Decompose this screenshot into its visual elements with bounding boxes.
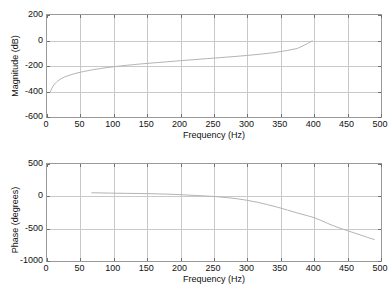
y-tick-label: -400 xyxy=(25,86,43,95)
magnitude-chart-panel: 050100150200250300350400450500 -600-400-… xyxy=(0,0,392,150)
phase-y-axis-title: Phase (degrees) xyxy=(11,187,20,254)
x-tick-label: 400 xyxy=(306,120,321,129)
x-tick-label: 150 xyxy=(139,264,154,273)
x-tick-label: 400 xyxy=(306,264,321,273)
x-tick-label: 300 xyxy=(239,264,254,273)
y-tick-label: 0 xyxy=(38,191,43,200)
y-tick-label: -1000 xyxy=(20,256,43,265)
phase-x-axis-title: Frequency (Hz) xyxy=(183,275,245,284)
x-tick-label: 0 xyxy=(43,264,48,273)
x-tick-label: 500 xyxy=(372,120,387,129)
magnitude-x-axis-title: Frequency (Hz) xyxy=(183,131,245,140)
x-tick-label: 250 xyxy=(205,120,220,129)
x-tick-label: 500 xyxy=(372,264,387,273)
y-tick-label: -600 xyxy=(25,112,43,121)
y-tick-label: -500 xyxy=(25,223,43,232)
phase-chart-panel: 050100150200250300350400450500 -1000-500… xyxy=(0,150,392,300)
x-tick-label: 350 xyxy=(272,264,287,273)
x-tick-label: 350 xyxy=(272,120,287,129)
x-tick-label: 450 xyxy=(339,120,354,129)
y-tick-label: 0 xyxy=(38,35,43,44)
phase-data-curve xyxy=(92,193,375,240)
x-tick-label: 50 xyxy=(74,120,84,129)
x-tick-label: 100 xyxy=(105,120,120,129)
x-tick-label: 50 xyxy=(74,264,84,273)
magnitude-data-curve xyxy=(50,41,312,92)
magnitude-y-axis-title: Magnitude (dB) xyxy=(11,35,20,97)
y-tick-label: 200 xyxy=(28,10,43,19)
x-tick-label: 200 xyxy=(172,264,187,273)
magnitude-curve-layer xyxy=(47,15,383,119)
x-tick-label: 250 xyxy=(205,264,220,273)
x-tick-label: 450 xyxy=(339,264,354,273)
phase-curve-layer xyxy=(47,164,383,263)
y-tick-label: -200 xyxy=(25,61,43,70)
figure-bode-plot: 050100150200250300350400450500 -600-400-… xyxy=(0,0,392,300)
x-tick-label: 200 xyxy=(172,120,187,129)
y-tick-label: 500 xyxy=(28,159,43,168)
x-tick-label: 0 xyxy=(43,120,48,129)
magnitude-plot-area xyxy=(46,14,382,118)
x-tick-label: 150 xyxy=(139,120,154,129)
x-tick-label: 100 xyxy=(105,264,120,273)
phase-plot-area xyxy=(46,163,382,262)
x-tick-label: 300 xyxy=(239,120,254,129)
